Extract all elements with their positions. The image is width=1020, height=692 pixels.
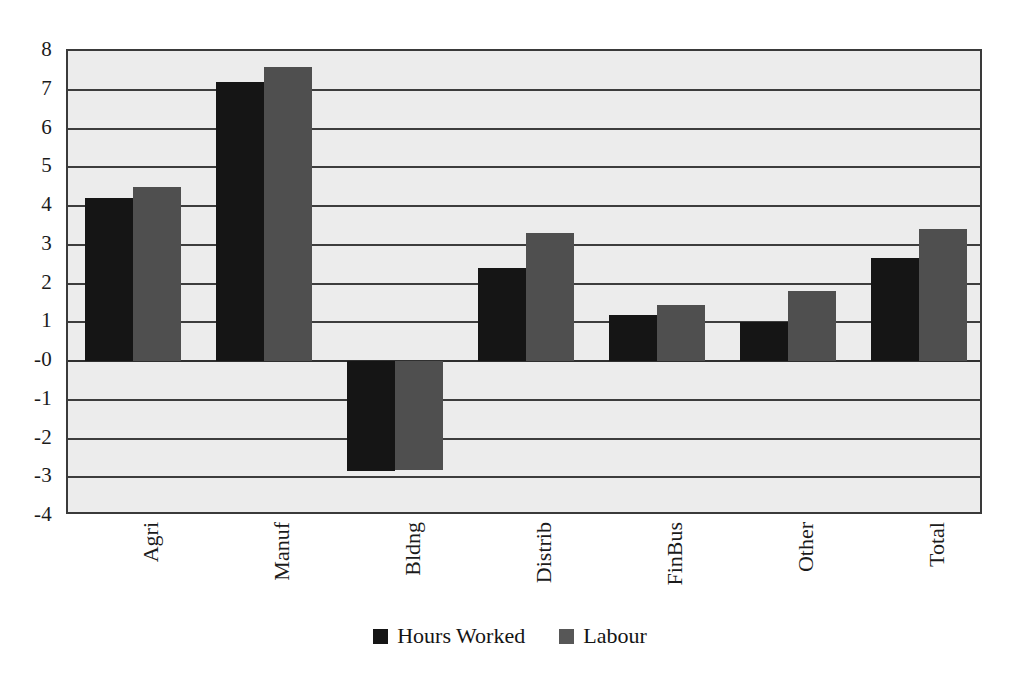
bar [264, 67, 312, 362]
x-tick-label: Manuf [271, 522, 293, 581]
bar [478, 268, 526, 361]
legend-item: Hours Worked [373, 625, 525, 647]
y-tick-label: 2 [41, 271, 52, 292]
bar [919, 229, 967, 361]
bar [133, 187, 181, 361]
legend-label: Labour [583, 625, 647, 647]
y-tick-label: -0 [34, 349, 52, 370]
y-tick-label: 7 [41, 77, 52, 98]
legend-label: Hours Worked [397, 625, 525, 647]
y-tick-label: 4 [41, 194, 52, 215]
x-tick-label: Distrib [533, 522, 555, 583]
bar [395, 361, 443, 470]
y-tick-label: -3 [34, 465, 52, 486]
y-tick-label: -1 [34, 387, 52, 408]
bar [216, 82, 264, 361]
bar [740, 322, 788, 361]
y-tick-label: 6 [41, 116, 52, 137]
plot-area [66, 49, 982, 514]
legend-item: Labour [559, 625, 647, 647]
x-tick-label: Total [926, 522, 948, 567]
y-axis: 87654321-0-1-2-3-4 [0, 0, 60, 692]
bar [788, 291, 836, 361]
legend: Hours WorkedLabour [0, 625, 1020, 647]
y-tick-label: 8 [41, 39, 52, 60]
x-tick-label: Bldng [402, 522, 424, 576]
x-tick-label: Agri [140, 522, 162, 562]
bar [526, 233, 574, 361]
legend-swatch-icon [559, 629, 574, 644]
y-tick-label: 1 [41, 310, 52, 331]
bar-chart: 87654321-0-1-2-3-4 AgriManufBldngDistrib… [0, 0, 1020, 692]
bar [609, 315, 657, 362]
legend-swatch-icon [373, 629, 388, 644]
y-tick-label: -2 [34, 426, 52, 447]
y-tick-label: 3 [41, 232, 52, 253]
bar [347, 361, 395, 471]
y-tick-label: 5 [41, 155, 52, 176]
y-tick-label: -4 [34, 504, 52, 525]
x-tick-label: FinBus [664, 522, 686, 586]
bar [657, 305, 705, 361]
x-axis: AgriManufBldngDistribFinBusOtherTotal [66, 514, 982, 624]
bars-layer [68, 51, 980, 512]
bar [85, 198, 133, 361]
x-tick-label: Other [795, 522, 817, 572]
bar [871, 258, 919, 361]
